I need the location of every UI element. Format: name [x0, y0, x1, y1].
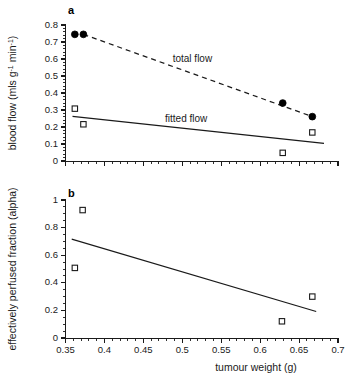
y-tick-label-b-5: 1 — [53, 194, 58, 205]
x-tick-label-b-5: 0.6 — [254, 344, 267, 355]
panel-a-fit-lines — [73, 34, 324, 143]
data-point-open-square — [80, 207, 85, 212]
data-point-open-square — [310, 294, 315, 299]
total-flow-fit — [83, 34, 312, 116]
data-point-open-square — [279, 319, 284, 324]
y-tick-label-a-6: 0.6 — [45, 53, 58, 64]
annotation-total-flow: total flow — [173, 53, 213, 64]
panel-a-y-ticks: 00.10.20.30.40.50.60.70.8 — [45, 19, 66, 166]
svg-text:blood flow (mls g-1 min-1): blood flow (mls g-1 min-1) — [6, 36, 18, 151]
y-tick-label-b-4: 0.8 — [45, 221, 58, 232]
panel-b-data-points — [72, 207, 315, 324]
panel-b-x-ticks: 0.350.40.450.50.550.60.650.7 — [56, 338, 344, 355]
panel-b-label: b — [68, 187, 75, 199]
alpha-fit — [72, 239, 316, 311]
x-tick-label-b-4: 0.55 — [212, 344, 231, 355]
panel-b: b effectively perfused fraction (alpha) … — [6, 187, 345, 373]
x-tick-label-b-1: 0.4 — [98, 344, 111, 355]
panel-a: a blood flow (mls g-1 min-1) 00.10.20.30… — [6, 4, 338, 166]
panel-a-data-points — [71, 31, 315, 156]
panel-a-label: a — [68, 4, 75, 16]
panel-b-y-ticks: 00.20.40.60.81 — [45, 194, 66, 343]
data-point-open-square — [81, 122, 86, 127]
panel-b-ylabel: effectively perfused fraction (alpha) — [6, 187, 18, 350]
panel-b-xlabel: tumour weight (g) — [215, 361, 297, 373]
panel-a-ylabel-tail: ) — [6, 36, 18, 40]
y-tick-label-a-5: 0.5 — [45, 70, 58, 81]
data-point-filled-circle — [309, 113, 316, 120]
y-tick-label-b-0: 0 — [53, 332, 58, 343]
panel-a-yaxis-title: blood flow (mls g-1 min-1) — [6, 36, 18, 151]
data-point-filled-circle — [71, 31, 78, 38]
panel-a-ylabel-lead: blood flow (mls g — [6, 71, 18, 150]
panel-a-series-annotations: total flowfitted flow — [165, 53, 213, 124]
data-point-filled-circle — [80, 31, 87, 38]
data-point-open-square — [72, 265, 77, 270]
y-tick-label-a-8: 0.8 — [45, 19, 58, 30]
data-point-open-square — [72, 106, 77, 111]
y-tick-label-b-2: 0.4 — [45, 276, 58, 287]
y-tick-label-a-1: 0.1 — [45, 138, 58, 149]
panel-a-ylabel-mid: min — [6, 45, 18, 65]
scientific-figure: a blood flow (mls g-1 min-1) 00.10.20.30… — [0, 0, 359, 376]
data-point-open-square — [310, 130, 315, 135]
x-tick-label-b-3: 0.5 — [176, 344, 189, 355]
figure-root: a blood flow (mls g-1 min-1) 00.10.20.30… — [0, 0, 359, 376]
y-tick-label-a-0: 0 — [53, 155, 58, 166]
y-tick-label-a-3: 0.3 — [45, 104, 58, 115]
y-tick-label-b-1: 0.2 — [45, 304, 58, 315]
y-tick-label-a-2: 0.2 — [45, 121, 58, 132]
x-tick-label-b-2: 0.45 — [134, 344, 153, 355]
x-tick-label-b-7: 0.7 — [331, 344, 344, 355]
x-tick-label-b-6: 0.65 — [290, 344, 309, 355]
x-tick-label-b-0: 0.35 — [56, 344, 75, 355]
annotation-fitted-flow: fitted flow — [165, 113, 208, 124]
y-tick-label-a-4: 0.4 — [45, 87, 58, 98]
data-point-filled-circle — [279, 100, 286, 107]
panel-b-fit-lines — [72, 239, 316, 311]
y-tick-label-a-7: 0.7 — [45, 36, 58, 47]
data-point-open-square — [280, 150, 285, 155]
y-tick-label-b-3: 0.6 — [45, 249, 58, 260]
